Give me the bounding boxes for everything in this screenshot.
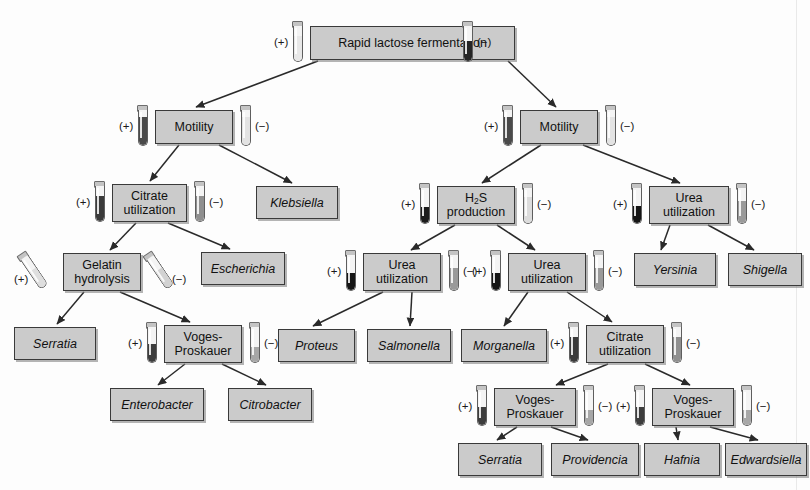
sign-negative-n23: (−)	[756, 400, 770, 412]
sign-positive-n2: (+)	[119, 120, 133, 132]
genus-box-klebsiella[interactable]: Klebsiella	[256, 186, 338, 219]
tube-fill	[148, 344, 156, 362]
test-tube-positive-n1	[291, 21, 304, 62]
sign-negative-n3: (−)	[620, 120, 634, 132]
genus-box-proteus[interactable]: Proteus	[278, 329, 355, 362]
node-label: Urea utilization	[650, 191, 728, 219]
test-box-h2s-production[interactable]: H2Sproduction	[437, 186, 515, 224]
test-tube-negative-n22	[582, 385, 595, 426]
tube-body	[241, 110, 251, 146]
genus-box-providencia[interactable]: Providencia	[551, 443, 639, 476]
node-label: Voges-Proskauer	[172, 330, 235, 358]
edge-n19-to-n22	[556, 364, 608, 385]
tube-body	[594, 255, 604, 291]
edge-n6-to-n11	[497, 225, 535, 250]
sign-positive-n19: (+)	[550, 337, 564, 349]
test-box-motility[interactable]: Motility	[155, 110, 233, 144]
edge-n1-to-n3	[508, 61, 556, 107]
test-box-urea-utilization[interactable]: Urea utilization	[363, 253, 441, 291]
edge-n7-to-n13	[708, 225, 754, 250]
tube-body	[195, 186, 205, 222]
test-tube-negative-n7	[735, 183, 748, 224]
test-box-motility[interactable]: Motility	[520, 110, 598, 144]
test-box-urea-utilization[interactable]: Urea utilization	[649, 186, 729, 224]
tube-body	[503, 110, 513, 146]
test-tube-positive-n11	[489, 250, 502, 291]
tube-body	[250, 327, 260, 363]
tube-body	[742, 390, 752, 426]
node-label: Citrate utilization	[113, 189, 186, 217]
test-box-voges-proskauer[interactable]: Voges-Proskauer	[164, 325, 242, 363]
tube-fill	[636, 407, 644, 425]
edge-n10-to-n17	[410, 292, 412, 326]
test-tube-positive-n23	[633, 385, 646, 426]
test-box-urea-utilization[interactable]: Urea utilization	[508, 253, 586, 291]
test-tube-positive-n2	[136, 105, 149, 146]
test-tube-negative-n4	[193, 181, 206, 222]
node-label: Citrobacter	[236, 398, 303, 412]
tube-body	[672, 327, 682, 363]
tube-body	[523, 188, 533, 224]
test-box-voges-proskauer[interactable]: Voges-Proskauer	[652, 388, 734, 426]
genus-box-morganella[interactable]: Morganella	[461, 329, 547, 362]
tube-body	[606, 110, 616, 146]
tube-fill	[504, 117, 512, 145]
node-label: Serratia	[475, 453, 525, 467]
test-box-gelatin-hydrolysis[interactable]: Gelatin hydrolysis	[63, 253, 141, 291]
test-box-citrate-utilization[interactable]: Citrate utilization	[112, 184, 187, 222]
genus-box-citrobacter[interactable]: Citrobacter	[228, 388, 312, 421]
tube-fill	[242, 117, 250, 145]
edge-n22-to-n25	[551, 427, 588, 440]
edge-n15-to-n20	[158, 364, 185, 385]
test-tube-positive-n3	[501, 105, 514, 146]
node-label: Motility	[172, 120, 217, 134]
sign-positive-n4: (+)	[76, 196, 90, 208]
node-label: Urea utilization	[364, 258, 440, 286]
node-label: Edwardsiella	[728, 453, 805, 467]
sign-negative-n11: (−)	[608, 265, 622, 277]
tube-fill	[450, 268, 458, 290]
genus-box-edwardsiella[interactable]: Edwardsiella	[725, 443, 807, 476]
node-label: H2Sproduction	[444, 191, 508, 219]
edge-n2-to-n5	[219, 145, 292, 183]
sign-negative-n8: (−)	[172, 273, 186, 285]
test-tube-positive-n22	[475, 385, 488, 426]
genus-box-hafnia[interactable]: Hafnia	[644, 443, 720, 476]
test-tube-negative-n15	[248, 322, 261, 363]
test-tube-positive-n10	[344, 250, 357, 291]
tube-fill	[570, 337, 578, 362]
node-label: Proteus	[292, 339, 341, 353]
test-box-citrate-utilization[interactable]: Citrate utilization	[586, 325, 664, 363]
genus-box-salmonella[interactable]: Salmonella	[367, 329, 451, 362]
test-tube-positive-n19	[567, 322, 580, 363]
tube-body	[584, 390, 594, 426]
edge-n8-to-n14	[57, 292, 84, 324]
tube-body	[138, 110, 148, 146]
test-tube-negative-n2	[239, 105, 252, 146]
sign-positive-n1: (+)	[274, 36, 288, 48]
tube-fill	[633, 206, 641, 224]
genus-box-yersinia[interactable]: Yersinia	[634, 253, 716, 286]
sign-positive-n3: (+)	[484, 120, 498, 132]
tube-body	[346, 255, 356, 291]
sign-negative-n7: (−)	[751, 198, 765, 210]
tube-fill	[673, 337, 681, 362]
edge-n11-to-n19	[567, 292, 612, 322]
genus-box-serratia[interactable]: Serratia	[14, 327, 96, 360]
node-label: Serratia	[30, 337, 80, 351]
tube-fill	[294, 36, 302, 61]
test-tube-negative-n23	[740, 385, 753, 426]
genus-box-enterobacter[interactable]: Enterobacter	[110, 388, 204, 421]
test-tube-negative-n1	[461, 21, 474, 62]
tube-fill	[492, 273, 500, 291]
test-tube-positive-n7	[630, 183, 643, 224]
sign-negative-n22: (−)	[598, 400, 612, 412]
test-box-voges-proskauer[interactable]: Voges-Proskauer	[494, 388, 576, 426]
tube-body	[293, 26, 303, 62]
sign-negative-n1: (−)	[477, 36, 491, 48]
genus-box-serratia[interactable]: Serratia	[458, 443, 542, 476]
genus-box-shigella[interactable]: Shigella	[728, 253, 802, 286]
test-tube-negative-n8	[142, 250, 176, 291]
test-tube-negative-n10	[447, 250, 460, 291]
genus-box-escherichia[interactable]: Escherichia	[201, 252, 285, 285]
